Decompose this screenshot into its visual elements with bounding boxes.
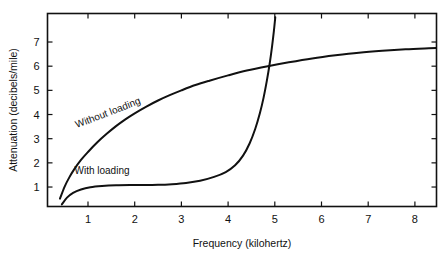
y-tick-label-5: 5 bbox=[33, 84, 39, 96]
curve-label-with-loading: With loading bbox=[74, 165, 129, 176]
x-tick-label-6: 6 bbox=[318, 213, 324, 225]
y-tick-label-4: 4 bbox=[33, 109, 39, 121]
chart-figure: 12345678 1234567 Without loadingWith loa… bbox=[0, 0, 445, 257]
y-tick-label-7: 7 bbox=[33, 36, 39, 48]
x-tick-label-4: 4 bbox=[225, 213, 231, 225]
x-tick-label-7: 7 bbox=[365, 213, 371, 225]
x-tick-label-1: 1 bbox=[85, 213, 91, 225]
y-tick-label-2: 2 bbox=[33, 157, 39, 169]
x-axis-title: Frequency (kilohertz) bbox=[193, 237, 292, 249]
x-tick-label-2: 2 bbox=[132, 213, 138, 225]
x-tick-label-3: 3 bbox=[178, 213, 184, 225]
attenuation-vs-frequency-chart: 12345678 1234567 Without loadingWith loa… bbox=[0, 0, 445, 257]
x-tick-label-8: 8 bbox=[412, 213, 418, 225]
y-axis-title: Attenuation (decibels/mile) bbox=[7, 48, 19, 172]
y-tick-label-3: 3 bbox=[33, 133, 39, 145]
x-tick-label-5: 5 bbox=[272, 213, 278, 225]
y-tick-label-1: 1 bbox=[33, 181, 39, 193]
chart-background bbox=[0, 0, 445, 257]
y-tick-label-6: 6 bbox=[33, 60, 39, 72]
